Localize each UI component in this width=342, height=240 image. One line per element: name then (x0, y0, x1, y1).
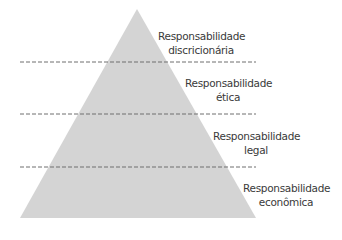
level-label-line2: ética (185, 90, 271, 104)
level-label-line1: Responsabilidade (213, 129, 299, 143)
level-label-discretionary: Responsabilidade discricionária (158, 29, 244, 57)
level-label-legal: Responsabilidade legal (213, 129, 299, 157)
level-label-ethical: Responsabilidade ética (185, 76, 271, 104)
level-label-line2: econômica (243, 195, 329, 209)
level-label-economic: Responsabilidade econômica (243, 181, 329, 209)
level-label-line2: legal (213, 143, 299, 157)
level-label-line1: Responsabilidade (243, 181, 329, 195)
level-label-line2: discricionária (158, 43, 244, 57)
level-label-line1: Responsabilidade (158, 29, 244, 43)
level-label-line1: Responsabilidade (185, 76, 271, 90)
